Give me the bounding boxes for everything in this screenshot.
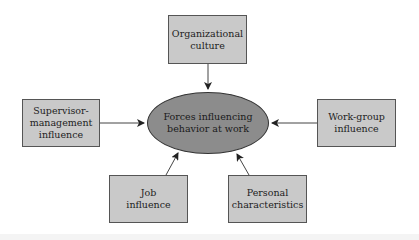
node-label: characteristics [232,199,304,211]
node-label: Organizational [172,28,243,40]
center-label: Forces influencing [163,111,252,123]
node-label: Personal [232,187,304,199]
diagram-canvas: Organizational culture Supervisor- manag… [0,0,419,240]
node-job: Job influence [109,175,188,223]
bottom-band [0,234,419,240]
node-label: Supervisor- [30,105,93,117]
arrow-personal [237,154,249,175]
center-ellipse: Forces influencing behavior at work [147,92,269,154]
node-label: influence [328,123,385,135]
node-label: management [30,117,93,129]
node-label: Job [126,187,170,199]
node-organizational-culture: Organizational culture [168,15,247,64]
node-label: culture [172,40,243,52]
node-label: influence [30,129,93,141]
node-label: influence [126,199,170,211]
node-supervisor-management: Supervisor- management influence [22,99,100,147]
arrow-job [166,153,178,175]
node-label: Work-group [328,111,385,123]
center-label: behavior at work [167,123,249,135]
node-personal: Personal characteristics [228,175,307,223]
node-work-group: Work-group influence [317,99,396,147]
